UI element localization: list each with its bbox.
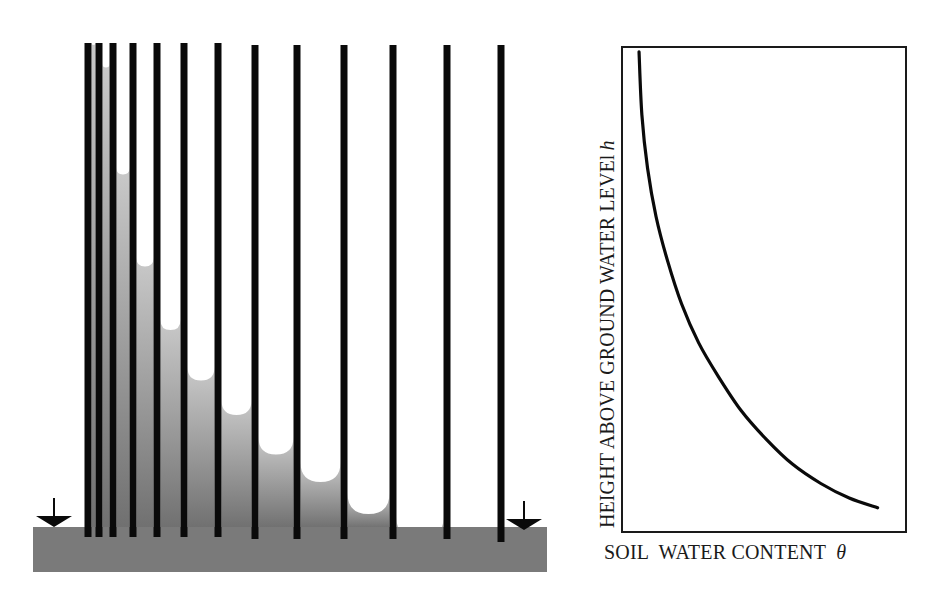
- tube-wall: [96, 43, 103, 537]
- water-column: [117, 168, 130, 528]
- tube-wall: [215, 43, 222, 537]
- capillary-tubes-illustration: [33, 43, 547, 572]
- water-column: [188, 367, 215, 528]
- tube-wall: [252, 45, 259, 539]
- water-column: [259, 437, 294, 528]
- retention-curve-chart: [622, 47, 906, 532]
- water-column: [137, 258, 154, 528]
- y-axis-label: HEIGHT ABOVE GROUND WATER LEVElh: [596, 140, 619, 528]
- y-axis-label-text: HEIGHT ABOVE GROUND WATER LEVEl: [596, 155, 618, 528]
- water-column: [348, 493, 390, 528]
- tube-wall: [110, 43, 117, 537]
- chart-frame: [622, 47, 906, 532]
- x-axis-label-text: SOIL WATER CONTENT: [604, 541, 826, 563]
- tube-wall: [498, 45, 505, 542]
- water-column: [301, 462, 341, 528]
- tube-wall: [181, 43, 188, 537]
- tube-wall: [85, 43, 92, 537]
- tube-wall: [390, 45, 397, 539]
- water-column: [103, 64, 110, 528]
- tube-wall: [444, 45, 451, 539]
- water-column: [161, 320, 181, 528]
- tube-wall: [341, 45, 348, 539]
- water-column: [222, 400, 252, 528]
- x-axis-label: SOIL WATER CONTENTθ: [604, 541, 846, 564]
- diagram-canvas: [0, 0, 936, 599]
- tube-wall: [130, 43, 137, 537]
- x-axis-symbol: θ: [836, 541, 846, 563]
- water-column: [92, 43, 96, 528]
- left-water-table-icon: [36, 498, 72, 527]
- y-axis-symbol: h: [596, 140, 618, 150]
- tube-wall: [154, 43, 161, 537]
- retention-curve: [639, 52, 878, 508]
- right-water-table-icon: [506, 501, 542, 530]
- tube-wall: [294, 45, 301, 539]
